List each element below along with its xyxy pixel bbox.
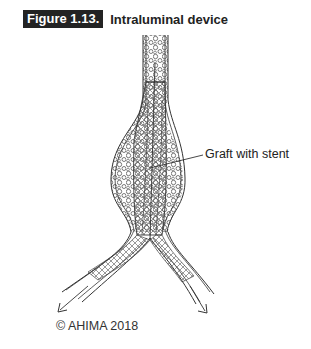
label-graft-with-stent: Graft with stent	[205, 147, 289, 161]
left-iliac-branch	[58, 230, 150, 312]
stent-graft	[134, 82, 167, 235]
copyright-notice: © AHIMA 2018	[56, 319, 138, 333]
intraluminal-device-diagram	[0, 0, 311, 349]
right-iliac-branch	[150, 230, 214, 313]
